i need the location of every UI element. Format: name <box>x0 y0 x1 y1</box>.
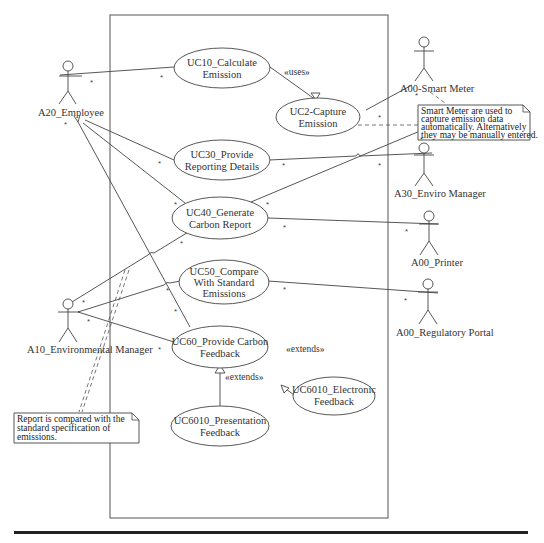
assoc-uc30-a30 <box>269 153 432 160</box>
uses-stereotype: «uses» <box>284 67 310 77</box>
actor-a00-printer[interactable] <box>419 211 439 255</box>
actor-a20-employee[interactable] <box>59 61 82 104</box>
actor-a30-label: A30_Enviro Manager <box>394 188 486 199</box>
uc40-label-2: Carbon Report <box>189 219 251 230</box>
uc30-label-1: UC30_Provide <box>191 149 254 160</box>
actor-a10-label: A10_Environmental Manager <box>27 344 153 355</box>
svg-text:*: * <box>174 200 177 209</box>
actor-a10-environmental-manager[interactable] <box>58 299 80 342</box>
svg-text:*: * <box>158 159 161 168</box>
uc6010p-label-1: UC6010_Presentation <box>174 415 267 426</box>
actor-regulatory-portal-label: A00_Regulatory Portal <box>396 327 494 338</box>
use-case-uc30[interactable]: UC30_Provide Reporting Details <box>174 140 270 180</box>
assoc-a20-uc60 <box>78 122 190 327</box>
uc50-label-1: UC50_Compare <box>190 266 259 277</box>
assoc-a10-uc60 <box>78 312 174 342</box>
svg-text:*: * <box>90 78 93 87</box>
uc40-label-1: UC40_Generate <box>186 207 255 218</box>
uc50-label-2: With Standard <box>194 277 255 288</box>
svg-text:*: * <box>158 345 161 354</box>
use-case-uc50[interactable]: UC50_Compare With Standard Emissions <box>179 260 269 304</box>
actor-a20-label: A20_Employee <box>38 107 104 118</box>
svg-text:*: * <box>180 239 183 248</box>
assoc-a20-uc40 <box>83 123 185 203</box>
svg-text:*: * <box>378 113 381 122</box>
use-case-uc6010-electronic[interactable]: UC6010_Electronic Feedback <box>292 377 376 415</box>
svg-text:*: * <box>166 286 169 295</box>
assoc-a20-uc30 <box>85 120 174 160</box>
uc2-label-1: UC2-Capture <box>290 106 347 117</box>
svg-text:*: * <box>405 227 408 236</box>
svg-text:*: * <box>174 307 177 316</box>
extends-electronic-arrow-icon <box>281 385 289 393</box>
svg-text:*: * <box>404 296 407 305</box>
actor-smart-meter-label: A00-Smart Meter <box>400 83 475 94</box>
bottom-rule <box>14 531 528 534</box>
uc60-label-2: Feedback <box>200 348 241 359</box>
svg-text:*: * <box>64 120 67 129</box>
actor-printer-label: A00_Printer <box>411 257 463 268</box>
uc30-label-2: Reporting Details <box>185 161 259 172</box>
assoc-a10-uc50 <box>78 281 180 312</box>
extends-stereotype-presentation: «extends» <box>225 372 264 382</box>
uc2-label-2: Emission <box>298 118 338 129</box>
note-smart-meter: Smart Meter are used to capture emission… <box>418 105 538 140</box>
use-case-uc6010-presentation[interactable]: UC6010_Presentation Feedback <box>171 406 269 446</box>
uc60-label-1: UC60_Provide Carbon <box>172 336 269 347</box>
svg-text:*: * <box>160 73 163 82</box>
uc6010p-label-2: Feedback <box>200 427 241 438</box>
svg-text:*: * <box>87 317 90 326</box>
uc10-label-2: Emission <box>202 69 242 80</box>
svg-text:*: * <box>378 161 381 170</box>
use-case-diagram: UC10_Calculate Emission UC2-Capture Emis… <box>0 0 544 543</box>
actor-a00-smart-meter[interactable] <box>414 37 434 81</box>
assoc-a10-uc40 <box>72 231 190 302</box>
svg-text:*: * <box>283 285 286 294</box>
svg-text:*: * <box>420 135 423 144</box>
assoc-uc40-printer <box>268 218 438 224</box>
svg-text:*: * <box>283 223 286 232</box>
assoc-uc50-portal <box>268 281 438 293</box>
note-smart-meter-line4: they may be manually entered. <box>421 130 538 140</box>
actor-a30-enviro-manager[interactable] <box>414 143 434 186</box>
assoc-a20-uc10 <box>60 67 174 75</box>
svg-text:*: * <box>266 200 269 209</box>
svg-text:*: * <box>82 298 85 307</box>
uc10-label-1: UC10_Calculate <box>187 57 257 68</box>
use-case-uc10[interactable]: UC10_Calculate Emission <box>174 48 270 88</box>
use-case-uc40[interactable]: UC40_Generate Carbon Report <box>172 197 268 239</box>
use-case-uc60[interactable]: UC60_Provide Carbon Feedback <box>172 326 269 368</box>
note-link-report-2 <box>79 270 125 412</box>
use-case-uc2[interactable]: UC2-Capture Emission <box>276 98 360 136</box>
uc50-label-3: Emissions <box>202 288 245 299</box>
actor-a00-regulatory-portal[interactable] <box>418 279 438 324</box>
svg-text:*: * <box>282 161 285 170</box>
uc6010e-label-1: UC6010_Electronic <box>292 384 376 395</box>
note-report: Report is compared with the standard spe… <box>14 413 139 443</box>
svg-text:*: * <box>415 91 418 100</box>
note-report-line3: emissions. <box>17 432 57 442</box>
extends-stereotype-electronic: «extends» <box>286 344 325 354</box>
uc6010e-label-2: Feedback <box>314 396 355 407</box>
